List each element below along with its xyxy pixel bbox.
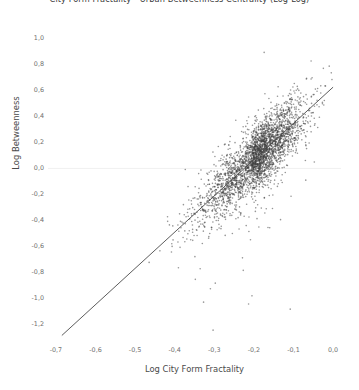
x-tick-label: -0,1 — [287, 346, 299, 354]
chart-title: City Form Fractality - Urban Betweenness… — [0, 0, 359, 4]
y-tick-label: -0,8 — [32, 268, 44, 276]
y-tick-label: 1,0 — [34, 34, 44, 42]
x-tick-label: -0,3 — [208, 346, 220, 354]
x-tick-label: -0,5 — [129, 346, 141, 354]
y-tick-label: -0,6 — [32, 242, 44, 250]
y-axis-label: Log Betweenness — [11, 73, 21, 193]
y-tick-label: -0,2 — [32, 190, 44, 198]
y-tick-label: -1,2 — [32, 320, 44, 328]
scatter-points — [148, 52, 332, 331]
x-tick-label: -0,6 — [89, 346, 101, 354]
x-tick-label: 0,0 — [328, 346, 338, 354]
x-axis-tick-labels: -0,7-0,6-0,5-0,4-0,3-0,2-0,10,0 — [0, 346, 359, 358]
y-tick-label: 0,6 — [34, 86, 44, 94]
scatter-plot-figure: City Form Fractality - Urban Betweenness… — [0, 0, 359, 390]
y-tick-label: 0,2 — [34, 138, 44, 146]
x-tick-label: -0,2 — [248, 346, 260, 354]
x-axis-label: Log City Form Fractality — [48, 364, 341, 374]
x-tick-label: -0,7 — [50, 346, 62, 354]
plot-canvas — [48, 28, 341, 340]
y-axis-tick-labels: 1,00,80,60,40,20,0-0,2-0,4-0,6-0,8-1,0-1… — [0, 0, 44, 390]
x-tick-label: -0,4 — [168, 346, 180, 354]
y-tick-label: 0,8 — [34, 60, 44, 68]
y-tick-label: 0,4 — [34, 112, 44, 120]
regression-line — [62, 87, 333, 335]
y-tick-label: 0,0 — [34, 164, 44, 172]
y-tick-label: -1,0 — [32, 294, 44, 302]
y-tick-label: -0,4 — [32, 216, 44, 224]
plot-area — [48, 28, 341, 340]
